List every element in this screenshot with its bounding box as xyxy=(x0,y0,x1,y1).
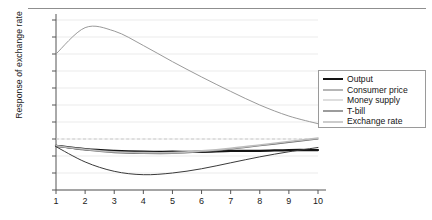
legend-label: Money supply xyxy=(347,95,400,106)
legend-item: T-bill xyxy=(323,106,421,117)
legend-label: Consumer price xyxy=(347,85,408,96)
chart-figure: Response of exchange rate –0.06–0.04–0.0… xyxy=(0,0,432,220)
legend-swatch-exchange-rate xyxy=(323,117,343,127)
legend-item: Exchange rate xyxy=(323,116,421,127)
legend-label: Output xyxy=(347,74,373,85)
legend-swatch-consumer-price xyxy=(323,85,343,95)
legend-label: Exchange rate xyxy=(347,116,402,127)
legend-item: Money supply xyxy=(323,95,421,106)
legend-item: Output xyxy=(323,74,421,85)
series-line-exchange-rate xyxy=(56,26,318,124)
legend-swatch-output xyxy=(323,74,343,84)
chart-legend: Output Consumer price Money supply T-bil… xyxy=(318,70,426,128)
legend-label: T-bill xyxy=(347,106,365,117)
legend-swatch-money-supply xyxy=(323,95,343,105)
legend-swatch-t-bill xyxy=(323,106,343,116)
legend-item: Consumer price xyxy=(323,85,421,96)
